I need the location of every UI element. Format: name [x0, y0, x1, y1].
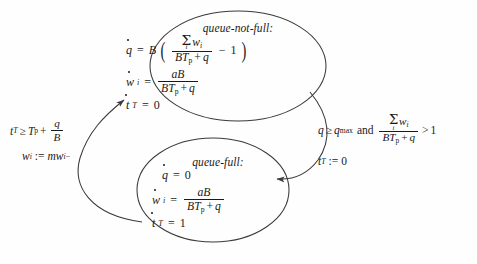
reset-action-not-full-to-full: tT := 0 [318, 155, 436, 167]
transition-label-full-to-not-full: tT ≥ Tp + q B wi := mwi− [10, 113, 70, 167]
equation-qdot-not-full: q = B ( Σi wi BTp+q − 1 ) [126, 35, 326, 66]
equation-widot-full: wi = aB BTp+q [152, 187, 332, 214]
state-equations-queue-not-full: q = B ( Σi wi BTp+q − 1 ) wi = aB BTp+q [126, 33, 326, 115]
equation-qdot-full: q = 0 [152, 168, 332, 183]
guard-condition-not-full-to-full: q ≥ qmax and Σi wi BTp+q > 1 [318, 115, 436, 145]
guard-condition-full-to-not-full: tT ≥ Tp + q B [10, 118, 70, 143]
equation-tTdot-not-full: tT = 0 [126, 98, 326, 113]
transition-curve-full-to-not-full[interactable] [78, 100, 142, 222]
diagram-canvas: queue-not-full: q = B ( Σi wi BTp+q − 1 … [0, 0, 477, 264]
state-equations-queue-full: q = 0 wi = aB BTp+q tT = 1 [152, 166, 332, 232]
reset-action-full-to-not-full: wi := mwi− [10, 150, 70, 162]
equation-tTdot-full: tT = 1 [152, 216, 332, 231]
equation-widot-not-full: wi = aB BTp+q [126, 69, 326, 96]
transition-label-not-full-to-full: q ≥ qmax and Σi wi BTp+q > 1 tT := 0 [318, 110, 436, 172]
